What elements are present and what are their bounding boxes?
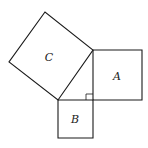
pythagorean-diagram: A B C bbox=[0, 0, 148, 148]
right-angle-marker bbox=[86, 94, 93, 100]
label-a: A bbox=[112, 70, 121, 83]
label-c: C bbox=[45, 51, 54, 64]
label-b: B bbox=[70, 113, 79, 126]
